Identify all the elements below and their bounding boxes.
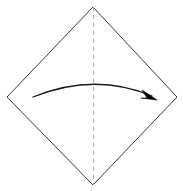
origami-fold-diagram [0, 0, 183, 191]
diagram-canvas [0, 0, 183, 191]
